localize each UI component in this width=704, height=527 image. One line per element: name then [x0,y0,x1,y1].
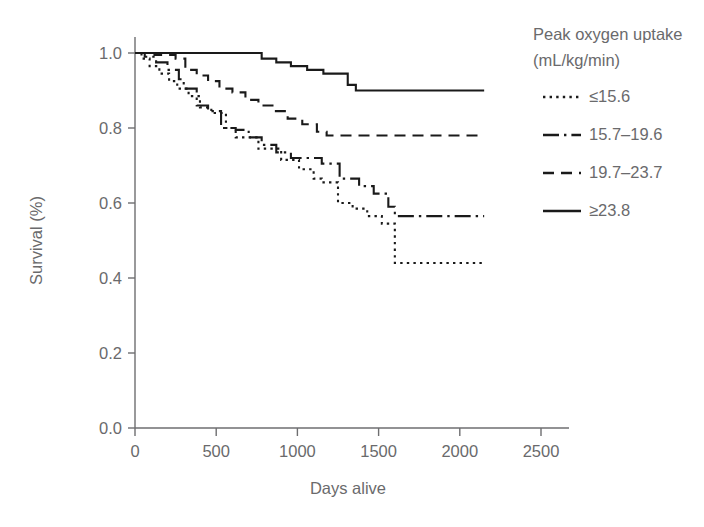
y-axis-ticks: 0.00.20.40.60.81.0 [99,44,135,437]
y-tick-label: 0.8 [99,119,122,137]
legend-label: 19.7–23.7 [589,163,662,181]
y-tick-label: 0.4 [99,269,122,287]
legend-entry: ≥23.8 [543,201,630,219]
legend-label: ≤15.6 [589,87,630,105]
curve-dotted [135,53,484,263]
legend-title-line-2: (mL/kg/min) [533,51,620,69]
x-tick-label: 1000 [279,442,316,460]
legend-entry: 15.7–19.6 [543,125,662,143]
x-tick-label: 500 [202,442,230,460]
y-axis-title: Survival (%) [27,196,45,285]
x-tick-label: 2000 [441,442,478,460]
legend-entry: ≤15.6 [543,87,630,105]
x-tick-label: 1500 [360,442,397,460]
x-axis-ticks: 05001000150020002500 [130,428,559,460]
x-tick-label: 2500 [523,442,560,460]
legend-label: ≥23.8 [589,201,630,219]
kaplan-meier-chart: 0.00.20.40.60.81.0 05001000150020002500 … [0,0,704,527]
legend-label: 15.7–19.6 [589,125,662,143]
caption-ghost-row [30,514,670,524]
legend-title-line-1: Peak oxygen uptake [533,25,683,43]
curve-dashed [135,53,484,136]
curve-solid [135,53,484,91]
y-tick-label: 0.2 [99,344,122,362]
legend-entries: ≤15.615.7–19.619.7–23.7≥23.8 [543,87,662,219]
y-tick-label: 1.0 [99,44,122,62]
axis-lines [135,37,569,428]
y-tick-label: 0.6 [99,194,122,212]
legend-entry: 19.7–23.7 [543,163,662,181]
survival-curves [135,53,484,263]
survival-figure: 0.00.20.40.60.81.0 05001000150020002500 … [0,0,704,527]
y-tick-label: 0.0 [99,419,122,437]
x-tick-label: 0 [130,442,139,460]
legend: Peak oxygen uptake (mL/kg/min) ≤15.615.7… [533,25,683,219]
x-axis-title: Days alive [310,479,386,497]
